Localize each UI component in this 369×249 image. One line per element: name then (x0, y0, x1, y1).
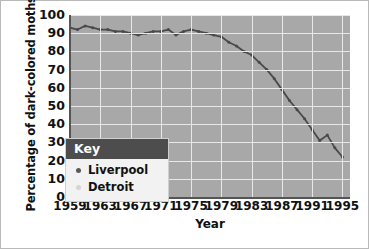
legend-marker-icon (76, 185, 81, 190)
chart-legend: Key LiverpoolDetroit (65, 138, 169, 202)
y-tick-label: 100 (31, 9, 65, 22)
y-tick-label: 20 (31, 154, 65, 167)
vertical-gridline (252, 15, 253, 197)
x-tick-label: 1995 (318, 200, 366, 214)
data-point-marker (296, 108, 299, 111)
data-point-marker (258, 61, 261, 64)
data-point-marker (106, 28, 109, 31)
data-point-marker (167, 28, 170, 31)
horizontal-gridline (70, 51, 350, 52)
y-tick-label: 60 (31, 82, 65, 95)
y-tick-label: 10 (31, 173, 65, 186)
data-point-marker (235, 44, 238, 47)
y-tick-label: 90 (31, 27, 65, 40)
legend-entries: LiverpoolDetroit (66, 159, 168, 201)
x-axis-title: Year (70, 217, 350, 231)
legend-entry-label: Detroit (88, 180, 134, 195)
legend-entry-label: Liverpool (88, 163, 148, 178)
data-point-marker (288, 99, 291, 102)
vertical-gridline (312, 15, 313, 197)
horizontal-gridline (70, 33, 350, 34)
horizontal-gridline (70, 15, 350, 16)
legend-marker-icon (76, 168, 81, 173)
y-tick-label: 40 (31, 118, 65, 131)
legend-entry: Detroit (66, 179, 168, 196)
data-point-marker (333, 146, 336, 149)
data-point-marker (91, 26, 94, 29)
data-point-marker (84, 24, 87, 27)
vertical-gridline (191, 15, 192, 197)
vertical-gridline (221, 15, 222, 197)
horizontal-gridline (70, 88, 350, 89)
chart-figure: Percentage of dark-colored moths 0102030… (0, 0, 369, 249)
y-tick-label: 50 (31, 100, 65, 113)
vertical-gridline (282, 15, 283, 197)
horizontal-gridline (70, 106, 350, 107)
data-point-marker (227, 41, 230, 44)
data-point-marker (303, 117, 306, 120)
legend-entry: Liverpool (66, 162, 168, 179)
data-point-marker (273, 77, 276, 80)
data-point-marker (76, 28, 79, 31)
legend-title: Key (66, 139, 168, 159)
y-tick-label: 80 (31, 45, 65, 58)
data-point-marker (326, 134, 329, 137)
y-axis-tick-labels: 0102030405060708090100 (31, 15, 65, 197)
vertical-gridline (342, 15, 343, 197)
y-tick-label: 70 (31, 63, 65, 76)
y-tick-label: 30 (31, 136, 65, 149)
horizontal-gridline (70, 70, 350, 71)
x-axis-tick-labels: 1959196319671971197519791983198719911995 (70, 200, 350, 218)
horizontal-gridline (70, 124, 350, 125)
